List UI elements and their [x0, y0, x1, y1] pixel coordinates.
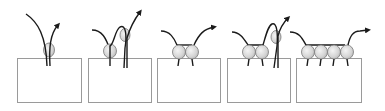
strand-in: [161, 31, 177, 45]
panel-5-block: [297, 59, 362, 103]
strand-leg: [347, 59, 348, 66]
panel-2-block: [89, 59, 152, 103]
strand-leg: [192, 59, 193, 66]
strand-leg: [320, 59, 321, 66]
bead-icon: [243, 45, 256, 59]
panel-3-block: [158, 59, 221, 103]
panel-3: [158, 27, 221, 103]
diagram-svg: [0, 0, 385, 111]
strand-out: [194, 27, 214, 45]
bead-icon: [328, 45, 341, 59]
strand-in: [232, 32, 263, 45]
bead-icon: [256, 45, 269, 59]
panel-2: [89, 12, 152, 103]
strand-leg: [248, 59, 249, 66]
bead-icon: [341, 45, 354, 59]
strand-leg: [178, 59, 179, 66]
panel-4: [228, 18, 291, 103]
diagram-canvas: [0, 0, 385, 111]
bead-icon: [315, 45, 328, 59]
panel-5: [290, 30, 368, 103]
bead-icon: [173, 45, 186, 59]
panel-4-block: [228, 59, 291, 103]
strand-out: [348, 30, 368, 45]
bead-icon: [302, 45, 315, 59]
strand-leg: [307, 59, 308, 66]
panel-1: [18, 14, 82, 103]
bead-icon: [186, 45, 199, 59]
strand-leg: [262, 59, 263, 66]
strand-leg: [333, 59, 334, 66]
strand-in: [290, 32, 345, 45]
